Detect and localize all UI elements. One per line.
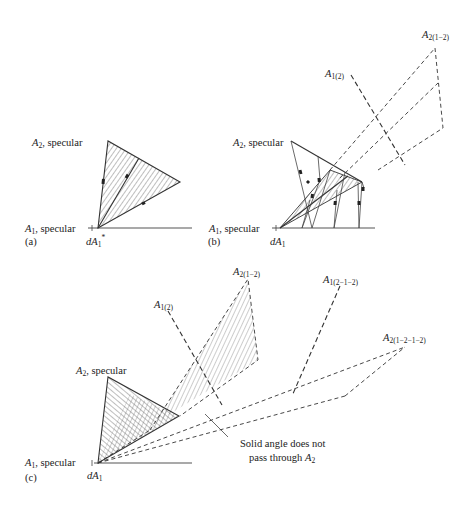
image-a1-2-1-2-line xyxy=(292,286,340,396)
panel-c-tag: (c) xyxy=(25,472,37,484)
a1-2-image-label: A1(2) xyxy=(324,68,344,81)
arrow-icon xyxy=(103,179,104,184)
arrow-icon xyxy=(312,194,313,198)
panel-b-tag: (b) xyxy=(208,236,221,248)
note-leader-line xyxy=(205,414,228,437)
a1-specular-label: A1, specular xyxy=(24,457,76,470)
a1-specular-label: A1, specular xyxy=(24,223,76,236)
a1-2-1-2-image-label: A1(2−1−2) xyxy=(322,274,358,287)
image-a2-1-2-1-2-line xyxy=(345,347,405,396)
da1-label: dA1 xyxy=(270,236,286,249)
arrow-icon xyxy=(142,203,145,205)
image-ray-dashed xyxy=(340,83,438,178)
a2-1-2-image-label: A2(1−2) xyxy=(232,266,260,279)
image-a2-1-2-hatch xyxy=(150,279,258,430)
a2-specular-label: A2, specular xyxy=(232,137,284,150)
note-line-1: Solid angle does not xyxy=(240,438,326,449)
image-a2-1-2-outline xyxy=(330,48,443,170)
panel-a: A2, specular A1, specular (a) dA1* xyxy=(24,137,192,249)
da1-star-label: dA1* xyxy=(86,233,105,249)
arrow-icon xyxy=(126,175,128,179)
panel-b: A2, specular A1, specular (b) dA1 A1(2) … xyxy=(208,29,449,249)
a2-1-2-1-2-image-label: A2(1−2−1−2) xyxy=(382,332,426,345)
arrow-icon xyxy=(307,181,309,183)
a2-1-2-image-label: A2(1−2) xyxy=(421,29,449,42)
a1-specular-label: A1, specular xyxy=(208,223,260,236)
arrow-icon xyxy=(300,170,301,174)
a2-specular-label: A2, specular xyxy=(31,137,83,150)
da1-label: dA1 xyxy=(87,470,103,483)
ray-center xyxy=(280,176,348,228)
image-a1-2-line xyxy=(351,75,405,165)
panel-c: A2, specular A1, specular (c) dA1 A1(2) … xyxy=(24,266,426,484)
note-line-2: pass through A2 xyxy=(249,452,315,465)
a1-2-image-label: A1(2) xyxy=(153,299,173,312)
a2-specular-label: A2, specular xyxy=(75,365,127,378)
panel-a-tag: (a) xyxy=(25,236,37,248)
solid-angle-wedge xyxy=(98,141,180,228)
specular-exchange-diagram: A2, specular A1, specular (a) dA1* xyxy=(0,0,469,505)
